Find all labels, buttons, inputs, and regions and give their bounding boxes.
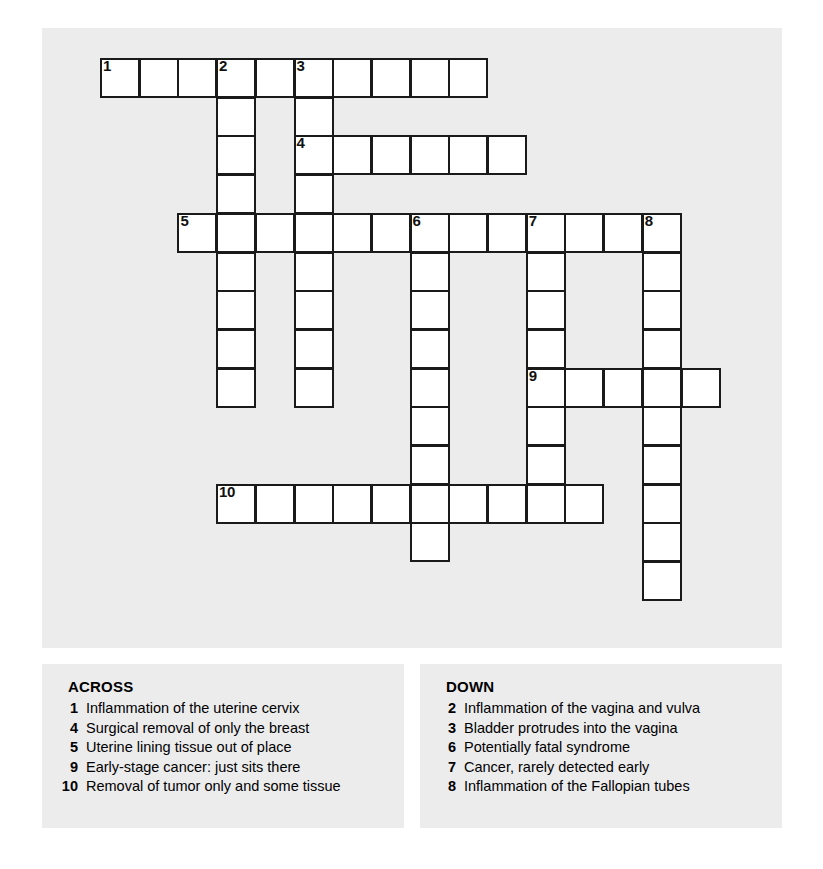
grid-cell-numbered[interactable]: 8	[642, 213, 682, 253]
grid-cell[interactable]	[255, 58, 295, 98]
clue-number: 8	[428, 777, 464, 797]
cell-number: 9	[529, 368, 537, 383]
down-heading: DOWN	[420, 664, 782, 699]
grid-cell[interactable]	[371, 58, 411, 98]
grid-cell[interactable]	[642, 368, 682, 408]
grid-cell[interactable]	[564, 213, 604, 253]
grid-cell[interactable]	[410, 484, 450, 524]
grid-cell[interactable]	[294, 252, 334, 292]
grid-cell-numbered[interactable]: 2	[216, 58, 256, 98]
grid-cell[interactable]	[642, 522, 682, 562]
grid-cell[interactable]	[410, 406, 450, 446]
clue-item[interactable]: 8Inflammation of the Fallopian tubes	[420, 777, 782, 797]
clue-item[interactable]: 6Potentially fatal syndrome	[420, 738, 782, 758]
grid-cell[interactable]	[410, 58, 450, 98]
grid-cell[interactable]	[642, 445, 682, 485]
grid-cell[interactable]	[642, 290, 682, 330]
grid-cell[interactable]	[642, 561, 682, 601]
grid-cell[interactable]	[294, 290, 334, 330]
grid-cell[interactable]	[216, 97, 256, 137]
grid-cell[interactable]	[371, 484, 411, 524]
grid-cell[interactable]	[526, 406, 566, 446]
grid-cell[interactable]	[216, 290, 256, 330]
clue-text: Uterine lining tissue out of place	[86, 738, 404, 758]
grid-cell[interactable]	[487, 484, 527, 524]
grid-cell[interactable]	[448, 213, 488, 253]
clue-number: 10	[50, 777, 86, 797]
grid-cell-numbered[interactable]: 10	[216, 484, 256, 524]
grid-cell[interactable]	[216, 252, 256, 292]
across-heading: ACROSS	[42, 664, 404, 699]
grid-cell[interactable]	[603, 368, 643, 408]
clue-text: Surgical removal of only the breast	[86, 719, 404, 739]
grid-cell[interactable]	[294, 97, 334, 137]
grid-cell[interactable]	[642, 484, 682, 524]
grid-cell-numbered[interactable]: 3	[294, 58, 334, 98]
grid-cell[interactable]	[216, 174, 256, 214]
grid-cell[interactable]	[216, 368, 256, 408]
grid-cell[interactable]	[410, 522, 450, 562]
grid-cell-numbered[interactable]: 6	[410, 213, 450, 253]
grid-cell[interactable]	[294, 213, 334, 253]
grid-cell[interactable]	[294, 484, 334, 524]
clue-item[interactable]: 3Bladder protrudes into the vagina	[420, 719, 782, 739]
grid-cell[interactable]	[526, 290, 566, 330]
grid-cell[interactable]	[139, 58, 179, 98]
clue-item[interactable]: 10Removal of tumor only and some tissue	[42, 777, 404, 797]
grid-cell[interactable]	[487, 213, 527, 253]
clue-item[interactable]: 7Cancer, rarely detected early	[420, 758, 782, 778]
grid-cell[interactable]	[410, 252, 450, 292]
cell-number: 10	[219, 484, 235, 499]
grid-cell[interactable]	[410, 290, 450, 330]
grid-cell[interactable]	[255, 213, 295, 253]
cell-number: 8	[645, 213, 653, 228]
grid-cell[interactable]	[216, 329, 256, 369]
grid-cell[interactable]	[526, 445, 566, 485]
clue-text: Inflammation of the Fallopian tubes	[464, 777, 782, 797]
grid-cell[interactable]	[526, 484, 566, 524]
grid-cell-numbered[interactable]: 1	[100, 58, 140, 98]
grid-cell[interactable]	[564, 368, 604, 408]
clue-item[interactable]: 1Inflammation of the uterine cervix	[42, 699, 404, 719]
grid-cell[interactable]	[410, 135, 450, 175]
grid-cell[interactable]	[642, 252, 682, 292]
grid-cell[interactable]	[487, 135, 527, 175]
grid-cell[interactable]	[642, 329, 682, 369]
grid-cell[interactable]	[216, 213, 256, 253]
grid-cell[interactable]	[603, 213, 643, 253]
clue-number: 1	[50, 699, 86, 719]
grid-cell[interactable]	[448, 484, 488, 524]
grid-cell[interactable]	[294, 368, 334, 408]
grid-cell[interactable]	[332, 213, 372, 253]
grid-cell[interactable]	[681, 368, 721, 408]
grid-cell-numbered[interactable]: 4	[294, 135, 334, 175]
grid-cell[interactable]	[448, 135, 488, 175]
crossword-grid[interactable]: 12345678910	[100, 58, 724, 606]
grid-cell[interactable]	[332, 484, 372, 524]
grid-cell-numbered[interactable]: 5	[177, 213, 217, 253]
grid-cell[interactable]	[448, 58, 488, 98]
grid-cell[interactable]	[410, 329, 450, 369]
clue-item[interactable]: 4Surgical removal of only the breast	[42, 719, 404, 739]
grid-cell[interactable]	[526, 252, 566, 292]
grid-cell[interactable]	[642, 406, 682, 446]
grid-cell-numbered[interactable]: 7	[526, 213, 566, 253]
grid-cell[interactable]	[410, 368, 450, 408]
cell-number: 4	[297, 135, 305, 150]
grid-cell-numbered[interactable]: 9	[526, 368, 566, 408]
clue-item[interactable]: 2Inflammation of the vagina and vulva	[420, 699, 782, 719]
grid-cell[interactable]	[332, 135, 372, 175]
grid-cell[interactable]	[332, 58, 372, 98]
grid-cell[interactable]	[564, 484, 604, 524]
grid-cell[interactable]	[216, 135, 256, 175]
grid-cell[interactable]	[294, 329, 334, 369]
clue-item[interactable]: 9Early-stage cancer: just sits there	[42, 758, 404, 778]
grid-cell[interactable]	[255, 484, 295, 524]
grid-cell[interactable]	[294, 174, 334, 214]
grid-cell[interactable]	[410, 445, 450, 485]
grid-cell[interactable]	[177, 58, 217, 98]
grid-cell[interactable]	[371, 213, 411, 253]
grid-cell[interactable]	[371, 135, 411, 175]
grid-cell[interactable]	[526, 329, 566, 369]
clue-item[interactable]: 5Uterine lining tissue out of place	[42, 738, 404, 758]
